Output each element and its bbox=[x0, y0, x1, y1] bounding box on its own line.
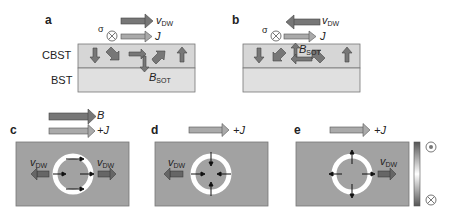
vdw-label: vDW bbox=[380, 156, 397, 168]
j-label: J bbox=[320, 31, 326, 42]
vdw-label: vDW bbox=[168, 157, 185, 169]
sigma-label: σ bbox=[98, 25, 104, 34]
panel-a-graphic bbox=[78, 14, 195, 92]
vdw-arrow-left bbox=[286, 15, 320, 29]
j-label: +J bbox=[97, 125, 109, 136]
panel-e-graphic bbox=[296, 124, 436, 207]
b-field-label: B bbox=[97, 110, 104, 121]
vdw-sub: DW bbox=[174, 162, 186, 169]
diagram-canvas bbox=[0, 0, 449, 216]
vdw-sub: DW bbox=[36, 162, 48, 169]
current-arrow-right bbox=[284, 31, 316, 42]
bst-layer bbox=[243, 68, 360, 92]
spin-into-page-icon bbox=[107, 31, 117, 41]
bst-label: BST bbox=[51, 75, 72, 86]
vdw-arrow-right bbox=[121, 14, 153, 28]
into-page-icon bbox=[426, 195, 436, 205]
bsot-sub: SOT bbox=[306, 49, 320, 56]
panel-label-c: c bbox=[10, 124, 17, 136]
vdw-right-label: vDW bbox=[97, 157, 114, 169]
colorbar bbox=[414, 142, 420, 206]
current-arrow-right bbox=[189, 124, 229, 137]
vdw-sub: DW bbox=[162, 20, 174, 27]
current-arrow-right bbox=[49, 125, 95, 138]
panel-label-e: e bbox=[294, 124, 301, 136]
j-label: +J bbox=[374, 125, 386, 136]
vdw-label: vDW bbox=[322, 15, 339, 27]
field-arrow-right bbox=[49, 109, 96, 124]
j-label: +J bbox=[233, 125, 245, 136]
out-of-page-icon bbox=[426, 142, 436, 152]
bst-layer bbox=[78, 68, 195, 92]
vdw-sub: DW bbox=[103, 162, 115, 169]
vdw-label: vDW bbox=[156, 15, 173, 27]
cbst-label: CBST bbox=[42, 50, 71, 61]
bsot-label: BSOT bbox=[299, 44, 321, 56]
vdw-sub: DW bbox=[328, 20, 340, 27]
vdw-sub: DW bbox=[386, 161, 398, 168]
vdw-left-label: vDW bbox=[30, 157, 47, 169]
bsot-sub: SOT bbox=[156, 77, 170, 84]
sigma-label: σ bbox=[262, 26, 268, 35]
panel-label-b: b bbox=[232, 14, 239, 26]
panel-label-d: d bbox=[151, 124, 158, 136]
bsot-label: BSOT bbox=[149, 72, 171, 84]
current-arrow-right bbox=[121, 31, 152, 42]
panel-label-a: a bbox=[45, 14, 52, 26]
j-label: J bbox=[155, 31, 161, 42]
spin-into-page-icon bbox=[271, 31, 281, 41]
current-arrow-right bbox=[330, 124, 370, 137]
